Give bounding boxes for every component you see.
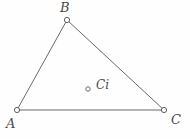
edge-ab	[17, 20, 67, 110]
vertex-label-c: C	[171, 113, 181, 126]
point-label-ci: Ci	[96, 79, 109, 91]
vertex-marker-c[interactable]	[161, 107, 166, 112]
geometry-diagram: A B C Ci	[0, 0, 190, 139]
diagram-canvas	[0, 0, 190, 139]
vertex-marker-b[interactable]	[64, 17, 69, 22]
vertex-marker-a[interactable]	[14, 107, 19, 112]
point-marker-ci[interactable]	[86, 87, 90, 91]
vertex-label-a: A	[6, 117, 15, 130]
vertex-label-b: B	[60, 1, 70, 14]
edge-bc	[67, 20, 164, 110]
